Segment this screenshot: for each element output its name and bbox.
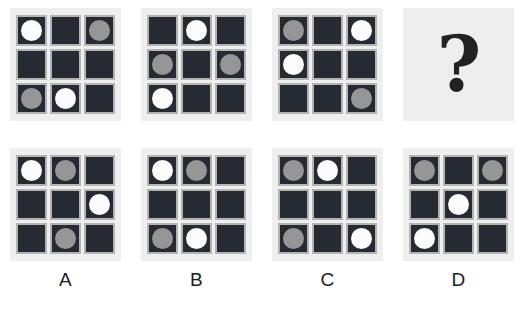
matrix-reasoning-puzzle: ? ABCD xyxy=(0,0,527,319)
cell-1-2 xyxy=(181,15,212,46)
cell-3-3 xyxy=(346,83,377,114)
white-disc-icon xyxy=(55,88,76,109)
cell-3-2 xyxy=(312,83,343,114)
cell-1-3 xyxy=(346,155,377,186)
cell-3-3 xyxy=(477,223,508,254)
sequence-panel-2-slot xyxy=(131,8,262,121)
cell-1-1 xyxy=(16,15,47,46)
gray-disc-icon xyxy=(351,88,372,109)
gray-disc-icon xyxy=(55,228,76,249)
white-disc-icon xyxy=(186,228,207,249)
cell-3-2 xyxy=(50,83,81,114)
gray-disc-icon xyxy=(283,228,304,249)
cell-2-1 xyxy=(147,49,178,80)
gray-disc-icon xyxy=(220,54,241,75)
cell-3-2 xyxy=(312,223,343,254)
gray-disc-icon xyxy=(414,160,435,181)
white-disc-icon xyxy=(21,20,42,41)
cell-1-2 xyxy=(50,155,81,186)
option-b-label: B xyxy=(190,270,203,290)
cell-3-3 xyxy=(215,83,246,114)
cell-3-1 xyxy=(16,83,47,114)
cell-3-1 xyxy=(147,223,178,254)
option-d-slot[interactable]: D xyxy=(393,148,524,290)
white-disc-icon xyxy=(448,194,469,215)
option-b-slot[interactable]: B xyxy=(131,148,262,290)
cell-1-3 xyxy=(477,155,508,186)
missing-panel-slot: ? xyxy=(393,8,524,121)
cell-2-3 xyxy=(84,189,115,220)
cell-1-3 xyxy=(215,155,246,186)
cell-3-2 xyxy=(443,223,474,254)
option-a[interactable] xyxy=(10,148,121,261)
cell-2-3 xyxy=(84,49,115,80)
gray-disc-icon xyxy=(283,20,304,41)
svg-text:?: ? xyxy=(436,25,481,105)
cell-2-1 xyxy=(278,189,309,220)
white-disc-icon xyxy=(186,20,207,41)
sequence-panel-1 xyxy=(10,8,121,121)
cell-2-1 xyxy=(16,189,47,220)
white-disc-icon xyxy=(283,54,304,75)
cell-1-3 xyxy=(84,15,115,46)
cell-1-1 xyxy=(147,15,178,46)
cell-2-2 xyxy=(312,49,343,80)
cell-2-1 xyxy=(16,49,47,80)
cell-1-2 xyxy=(50,15,81,46)
sequence-panel-3 xyxy=(272,8,383,121)
option-a-slot[interactable]: A xyxy=(0,148,131,290)
cell-3-3 xyxy=(346,223,377,254)
cell-1-2 xyxy=(181,155,212,186)
cell-1-2 xyxy=(312,155,343,186)
question-mark-icon: ? xyxy=(427,25,491,105)
gray-disc-icon xyxy=(152,54,173,75)
cell-2-2 xyxy=(50,189,81,220)
cell-2-2 xyxy=(50,49,81,80)
option-c[interactable] xyxy=(272,148,383,261)
cell-2-2 xyxy=(443,189,474,220)
cell-2-3 xyxy=(346,49,377,80)
cell-3-3 xyxy=(84,83,115,114)
white-disc-icon xyxy=(351,228,372,249)
cell-2-3 xyxy=(477,189,508,220)
white-disc-icon xyxy=(351,20,372,41)
white-disc-icon xyxy=(152,160,173,181)
option-b[interactable] xyxy=(141,148,252,261)
gray-disc-icon xyxy=(482,160,503,181)
cell-2-3 xyxy=(346,189,377,220)
cell-2-1 xyxy=(278,49,309,80)
option-a-label: A xyxy=(59,270,72,290)
cell-2-1 xyxy=(147,189,178,220)
gray-disc-icon xyxy=(55,160,76,181)
gray-disc-icon xyxy=(89,20,110,41)
cell-3-2 xyxy=(50,223,81,254)
cell-3-1 xyxy=(278,83,309,114)
cell-1-1 xyxy=(409,155,440,186)
cell-3-2 xyxy=(181,83,212,114)
option-d[interactable] xyxy=(403,148,514,261)
cell-2-3 xyxy=(215,49,246,80)
white-disc-icon xyxy=(89,194,110,215)
white-disc-icon xyxy=(317,160,338,181)
cell-3-1 xyxy=(147,83,178,114)
cell-1-1 xyxy=(147,155,178,186)
cell-3-3 xyxy=(215,223,246,254)
cell-3-1 xyxy=(278,223,309,254)
option-c-label: C xyxy=(321,270,335,290)
cell-1-1 xyxy=(278,155,309,186)
cell-2-3 xyxy=(215,189,246,220)
sequence-panel-3-slot xyxy=(262,8,393,121)
white-disc-icon xyxy=(152,88,173,109)
gray-disc-icon xyxy=(186,160,207,181)
option-c-slot[interactable]: C xyxy=(262,148,393,290)
option-d-label: D xyxy=(452,270,466,290)
cell-1-2 xyxy=(443,155,474,186)
gray-disc-icon xyxy=(152,228,173,249)
question-panel: ? xyxy=(403,8,514,121)
sequence-panel-1-slot xyxy=(0,8,131,121)
cell-2-2 xyxy=(181,49,212,80)
cell-1-3 xyxy=(346,15,377,46)
cell-3-1 xyxy=(409,223,440,254)
white-disc-icon xyxy=(414,228,435,249)
cell-1-2 xyxy=(312,15,343,46)
